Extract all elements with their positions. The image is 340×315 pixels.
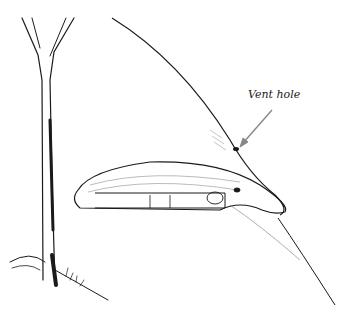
snow-slope [112, 18, 335, 305]
illustration-canvas: Vent hole [0, 0, 340, 315]
snow-cave [74, 162, 300, 260]
arrow-icon [240, 110, 272, 147]
vent-hole-label: Vent hole [248, 88, 300, 101]
snow-shelter-drawing [0, 0, 340, 315]
tree [10, 18, 108, 300]
vent-hole [233, 147, 239, 151]
